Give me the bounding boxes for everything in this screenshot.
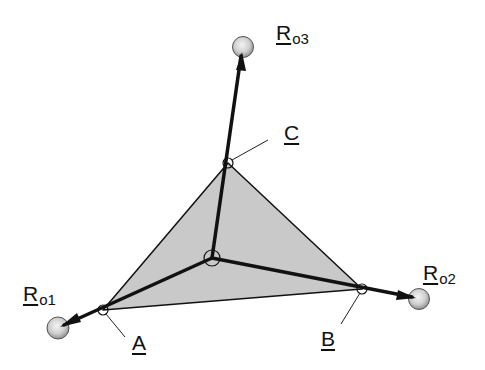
diagram-canvas [0, 0, 485, 370]
label-ro1: Ro1 [23, 283, 56, 307]
leader-a [106, 314, 125, 337]
label-ro3: Ro3 [276, 22, 309, 46]
leader-b [341, 293, 360, 324]
leader-c [232, 140, 268, 160]
label-a: A [132, 332, 146, 353]
label-b: B [321, 328, 335, 349]
sphere-ro2-icon [409, 289, 430, 310]
sphere-ro3-icon [233, 37, 254, 58]
label-c: C [284, 122, 299, 143]
label-ro2: Ro2 [423, 262, 456, 286]
sphere-ro1-icon [47, 317, 69, 339]
